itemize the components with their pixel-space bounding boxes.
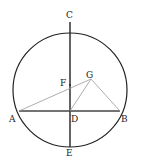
label-c: C <box>66 10 73 20</box>
geometry-diagram: C F G A D B E <box>0 0 141 158</box>
label-d: D <box>71 114 78 124</box>
segment-bg <box>91 79 120 111</box>
label-e: E <box>66 148 73 158</box>
point-f <box>69 84 71 86</box>
label-g: G <box>86 70 93 80</box>
label-b: B <box>121 114 128 124</box>
label-f: F <box>60 78 66 88</box>
label-a: A <box>8 114 16 124</box>
